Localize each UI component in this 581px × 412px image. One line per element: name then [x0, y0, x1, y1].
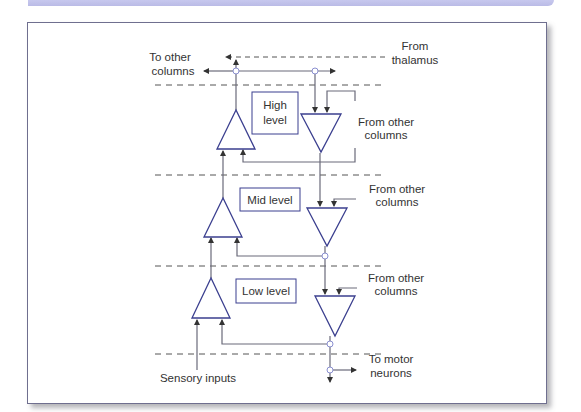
from-other-columns-mid-line1: From other — [369, 183, 425, 195]
node-motor — [327, 367, 333, 373]
descending-neurons — [301, 114, 355, 336]
to-other-columns-line1: To other — [149, 51, 191, 63]
node-mid — [322, 253, 328, 259]
from-other-columns-high-line2: columns — [365, 129, 408, 141]
from-thalamus-line2: thalamus — [392, 54, 439, 66]
label-mid: Mid level — [247, 194, 292, 206]
from-other-columns-low-line2: columns — [375, 285, 418, 297]
from-other-columns-mid-line2: columns — [376, 196, 419, 208]
node-low — [327, 341, 333, 347]
from-other-columns-low-line1: From other — [368, 272, 424, 284]
node-top-left — [233, 68, 239, 74]
node-top-right — [312, 68, 318, 74]
cortical-column-diagram: High level Mid level Low level To other … — [0, 0, 581, 412]
label-high-1: High — [263, 99, 287, 111]
label-high-2: level — [263, 114, 287, 126]
triangle-down-low — [315, 296, 355, 336]
to-motor-neurons-line2: neurons — [370, 367, 412, 379]
triangle-up-mid — [204, 198, 242, 237]
label-low: Low level — [242, 285, 290, 297]
triangle-down-mid — [307, 208, 347, 246]
triangle-up-low — [192, 278, 230, 318]
to-other-columns-line2: columns — [152, 65, 195, 77]
from-thalamus-line1: From — [402, 40, 429, 52]
triangle-up-high — [217, 110, 255, 149]
from-other-columns-high-line1: From other — [358, 116, 414, 128]
sensory-inputs-label: Sensory inputs — [160, 372, 236, 384]
to-motor-neurons-line1: To motor — [369, 353, 414, 365]
triangle-down-high — [301, 114, 341, 152]
